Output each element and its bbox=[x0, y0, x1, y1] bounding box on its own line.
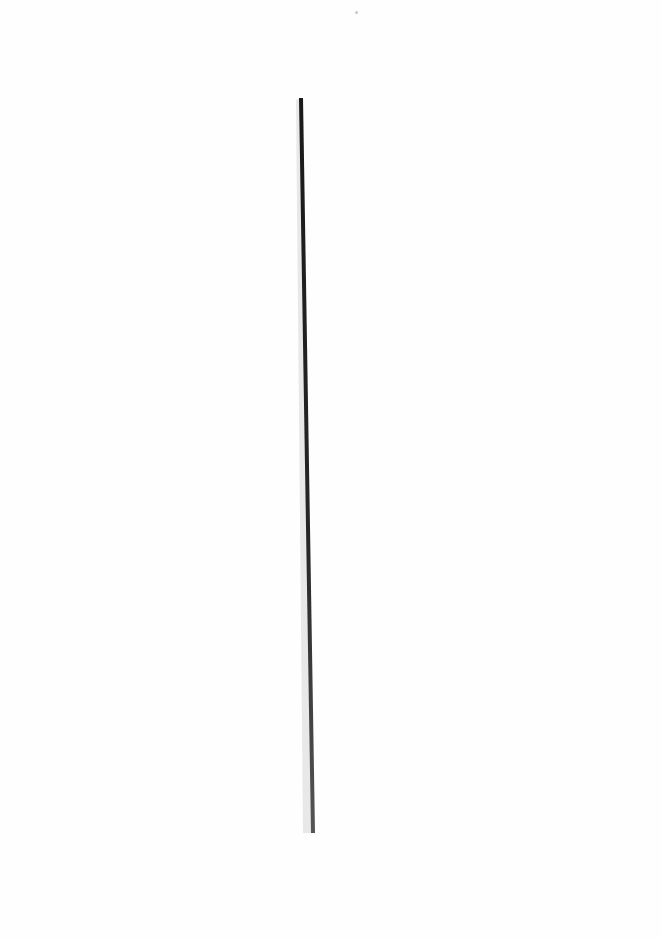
scanned-page bbox=[0, 0, 662, 938]
vertical-rule bbox=[0, 0, 662, 938]
scan-speck bbox=[355, 11, 358, 14]
